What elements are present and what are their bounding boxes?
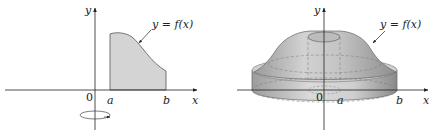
curve-pointer [139, 30, 151, 43]
right-figure: y x 0 a b y = f(x) [237, 4, 430, 130]
b-label: b [163, 94, 170, 107]
curve-label: y = f(x) [151, 18, 193, 31]
figure-canvas: y x 0 a b y = f(x) y x 0 a b y = f(x) [0, 0, 435, 136]
left-figure: y x 0 a b y = f(x) [5, 4, 199, 130]
curve-label: y = f(x) [379, 18, 421, 31]
x-axis-label: x [423, 94, 430, 107]
y-axis-label: y [313, 4, 321, 17]
shaded-region [110, 33, 166, 90]
curve-pointer [373, 31, 385, 43]
origin-label: 0 [316, 91, 323, 104]
a-label: a [107, 94, 114, 107]
b-label: b [396, 94, 403, 107]
origin-label: 0 [86, 91, 93, 104]
y-axis-label: y [84, 4, 92, 17]
x-axis-label: x [192, 94, 199, 107]
a-label: a [337, 94, 344, 107]
